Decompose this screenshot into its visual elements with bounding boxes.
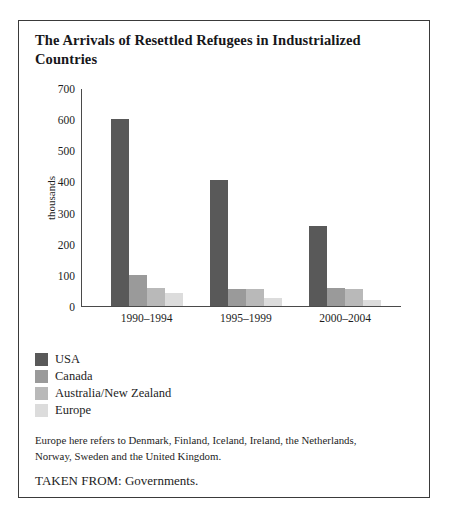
footnote-text: Europe here refers to Denmark, Finland, … — [35, 433, 395, 465]
plot-area: thousands 7006005004003002001000 1990–19… — [81, 89, 401, 307]
y-tick-label: 700 — [15, 83, 75, 95]
chart-title: The Arrivals of Resettled Refugees in In… — [35, 31, 407, 69]
legend-swatch-icon — [35, 370, 48, 383]
bar-group: 2000–2004 — [309, 88, 381, 306]
y-tick-label: 200 — [15, 239, 75, 251]
bar-usa — [210, 180, 228, 306]
x-tick-label: 1990–1994 — [121, 312, 173, 324]
legend-label: Australia/New Zealand — [55, 386, 171, 401]
bar-australia-new-zealand — [246, 289, 264, 306]
bar-canada — [129, 275, 147, 306]
y-tick-label: 500 — [15, 145, 75, 157]
legend-swatch-icon — [35, 387, 48, 400]
bar-group: 1995–1999 — [210, 88, 282, 306]
bar-canada — [228, 289, 246, 306]
y-axis-line — [81, 89, 82, 307]
bar-europe — [363, 300, 381, 306]
chart-legend: USACanadaAustralia/New ZealandEurope — [35, 351, 171, 419]
y-tick-label: 600 — [15, 114, 75, 126]
bar-stack — [111, 88, 183, 306]
legend-label: Europe — [55, 403, 91, 418]
bar-europe — [264, 298, 282, 306]
bar-usa — [309, 226, 327, 305]
legend-item: Australia/New Zealand — [35, 385, 171, 402]
y-tick-label: 0 — [15, 301, 75, 313]
bar-group: 1990–1994 — [111, 88, 183, 306]
figure-frame: The Arrivals of Resettled Refugees in In… — [18, 20, 430, 498]
source-note: TAKEN FROM: Governments. — [35, 473, 198, 489]
x-tick-label: 1995–1999 — [220, 312, 272, 324]
legend-item: USA — [35, 351, 171, 368]
y-tick-label: 300 — [15, 208, 75, 220]
y-tick-label: 100 — [15, 270, 75, 282]
bar-stack — [210, 88, 282, 306]
legend-label: USA — [55, 352, 80, 367]
x-axis-line — [81, 306, 401, 307]
legend-label: Canada — [55, 369, 92, 384]
legend-swatch-icon — [35, 404, 48, 417]
bar-europe — [165, 293, 183, 305]
legend-item: Canada — [35, 368, 171, 385]
legend-item: Europe — [35, 402, 171, 419]
y-tick-label: 400 — [15, 176, 75, 188]
bar-usa — [111, 119, 129, 306]
bar-australia-new-zealand — [345, 289, 363, 306]
bar-canada — [327, 288, 345, 306]
bar-australia-new-zealand — [147, 288, 165, 306]
legend-swatch-icon — [35, 353, 48, 366]
x-tick-label: 2000–2004 — [319, 312, 371, 324]
bar-stack — [309, 88, 381, 306]
